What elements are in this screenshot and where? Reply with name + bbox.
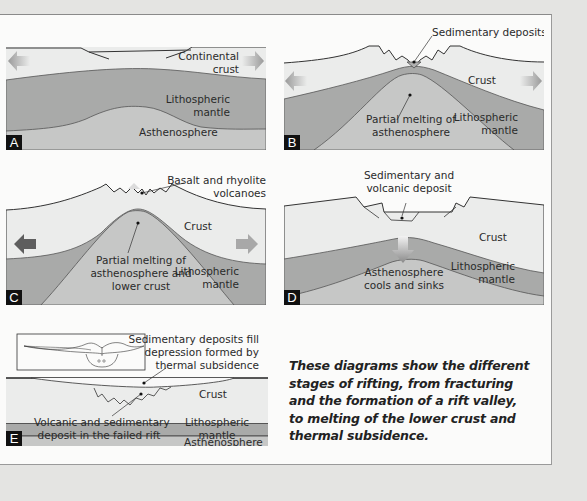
label-lithospheric-mantle: Lithospheric mantle <box>175 265 239 291</box>
label-failed-rift-deposit: Volcanic and sedimentary deposit in the … <box>34 416 164 442</box>
diagram-caption: These diagrams show the different stages… <box>289 357 559 445</box>
panel-a: Continental crust Lithospheric mantle As… <box>6 47 266 150</box>
label-sedimentary-deposits-fill: Sedimentary deposits fill depression for… <box>129 333 259 372</box>
caption-line: and the formation of a rift valley, <box>289 392 559 410</box>
label-asthenosphere: Asthenosphere <box>184 436 263 446</box>
caption-line: thermal subsidence. <box>289 427 559 445</box>
caption-line: These diagrams show the different <box>289 357 559 375</box>
label-crust: Crust <box>199 388 227 401</box>
caption-line: stages of rifting, from fracturing <box>289 375 559 393</box>
inset-diagram <box>17 334 145 370</box>
label-sedimentary-deposits: Sedimentary deposits <box>432 26 544 39</box>
panel-badge: C <box>6 290 22 305</box>
label-lithospheric-mantle: Lithospheric mantle <box>166 93 230 119</box>
label-lithospheric-mantle: Lithospheric mantle <box>451 260 515 286</box>
label-basalt-rhyolite-volcanoes: Basalt and rhyolite volcanoes <box>167 174 266 200</box>
panel-badge: A <box>6 135 22 150</box>
panel-d: Sedimentary and volcanic deposit Crust A… <box>284 163 544 305</box>
caption-line: to melting of the lower crust and <box>289 410 559 428</box>
label-continental-crust: Continental crust <box>178 50 239 76</box>
panel-b: Sedimentary deposits Crust Partial melti… <box>284 22 544 150</box>
label-crust: Crust <box>479 231 507 244</box>
label-lithospheric-mantle: Lithospheric mantle <box>454 111 518 137</box>
label-asthenosphere: Asthenosphere <box>139 126 218 139</box>
panel-c: Basalt and rhyolite volcanoes Crust Part… <box>6 163 266 305</box>
panel-e: Sedimentary deposits fill depression for… <box>6 332 268 446</box>
panel-badge: B <box>284 135 300 150</box>
label-partial-melting: Partial melting of asthenosphere <box>356 113 466 139</box>
label-asthenosphere-cools-sinks: Asthenosphere cools and sinks <box>349 266 459 292</box>
label-crust: Crust <box>468 74 496 87</box>
label-sedimentary-volcanic-deposit: Sedimentary and volcanic deposit <box>354 169 464 195</box>
panel-badge: E <box>6 431 22 446</box>
label-crust: Crust <box>184 220 212 233</box>
panel-badge: D <box>284 290 300 305</box>
